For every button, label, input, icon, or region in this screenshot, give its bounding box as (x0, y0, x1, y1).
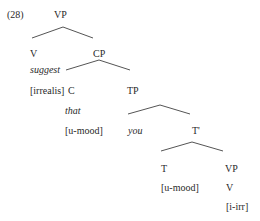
node-tbar: T' (192, 126, 200, 136)
tree-branches (0, 0, 260, 221)
word-suggest: suggest (30, 65, 60, 75)
node-vp-lower: VP (225, 164, 238, 174)
node-tp: TP (127, 86, 139, 96)
node-cp: CP (93, 49, 105, 59)
node-vp-root: VP (54, 10, 67, 20)
node-t: T (161, 164, 167, 174)
example-number: (28) (7, 10, 24, 20)
feature-irrealis: [irrealis] (30, 86, 64, 96)
feature-i-irr: [i-irr] (226, 202, 248, 212)
node-v-lower: V (226, 183, 233, 193)
word-that: that (65, 106, 81, 116)
node-v: V (30, 49, 37, 59)
node-c: C (68, 86, 75, 96)
word-you: you (128, 126, 142, 136)
feature-u-mood-t: [u-mood] (161, 183, 199, 193)
feature-u-mood-c: [u-mood] (65, 126, 103, 136)
